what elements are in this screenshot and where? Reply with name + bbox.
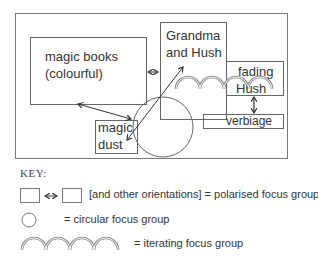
fading-hush-label-2: Hush bbox=[236, 81, 266, 97]
magic-books-label-2: (colourful) bbox=[45, 66, 103, 82]
arrow-books-dust bbox=[78, 104, 131, 119]
key-circular-text: = circular focus group bbox=[64, 213, 169, 225]
key-box-right bbox=[63, 189, 82, 203]
magic-books-label-1: magic books bbox=[45, 49, 118, 65]
key-circle bbox=[22, 213, 36, 227]
key-title: KEY: bbox=[20, 167, 47, 179]
key-iterating-text: = iterating focus group bbox=[134, 237, 243, 249]
circular-focus-ellipse bbox=[133, 97, 193, 157]
verbiage-label: verbiage bbox=[226, 114, 272, 128]
arrow-dust-grandma bbox=[127, 67, 183, 140]
grandma-label-2: and Hush bbox=[166, 45, 222, 61]
grandma-label-1: Grandma bbox=[166, 28, 220, 44]
key-polarised-text: [and other orientations] = polarised foc… bbox=[89, 188, 318, 200]
key-box-left bbox=[21, 189, 40, 203]
fading-hush-label-1: fading bbox=[238, 64, 273, 80]
magic-dust-label-2: dust bbox=[98, 137, 123, 153]
magic-dust-label-1: magic bbox=[98, 120, 133, 136]
